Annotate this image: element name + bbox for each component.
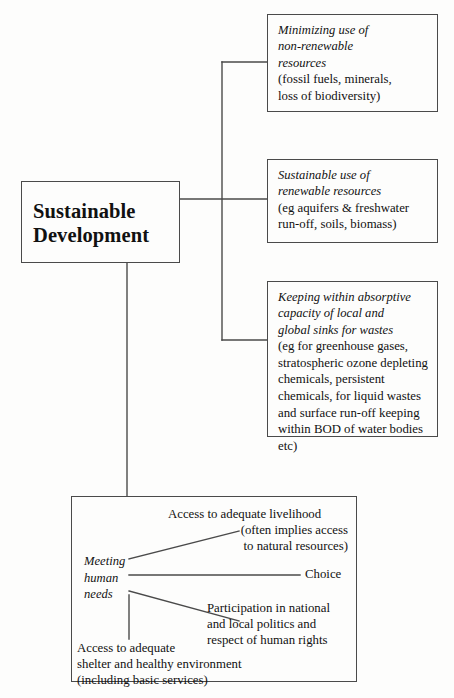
branch-3-body-line-1: (eg for greenhouse gases, [278,338,428,355]
branch-2-heading-line-2: renewable resources [278,183,428,199]
root-title-line-1: Sustainable [33,200,136,222]
shelter-line-1: Access to adequate [77,641,242,657]
branch-3-body-line-4: chemicals, for liquid wastes [278,388,428,405]
livelihood-line-2: (often implies access [120,523,348,539]
branch-2-heading-line-1: Sustainable use of [278,167,428,183]
branch-1-body: (fossil fuels, minerals, loss of biodive… [278,71,428,104]
branch-3-body-line-3: chemicals, persistent [278,371,428,388]
branch-3-body-line-2: stratospheric ozone depleting [278,355,428,372]
branch-3-heading: Keeping within absorptive capacity of lo… [278,289,428,338]
branch-1-heading-line-2: non-renewable [278,38,428,54]
branch-3-heading-line-1: Keeping within absorptive [278,289,428,305]
hub-label-line-1: Meeting [84,553,125,570]
root-title-line-2: Development [33,223,179,247]
choice-line-1: Choice [305,567,341,583]
branch-1-heading: Minimizing use of non-renewable resource… [278,22,428,71]
node-minimizing-non-renewable: Minimizing use of non-renewable resource… [267,14,438,112]
root-title: Sustainable Development [22,182,179,247]
branch-2-body: (eg aquifers & freshwater run-off, soils… [278,200,428,233]
node-meeting-human-needs: Meeting human needs Access to adequate l… [71,496,357,682]
branch-3-body: (eg for greenhouse gases, stratospheric … [278,338,428,454]
participation-line-1: Participation in national [207,601,330,617]
label-access-to-adequate-livelihood: Access to adequate livelihood (often imp… [120,507,348,555]
node-sustainable-development: Sustainable Development [21,181,180,263]
livelihood-line-1: Access to adequate livelihood [120,507,348,523]
livelihood-line-3: to natural resources) [120,539,348,555]
branch-3-heading-line-2: capacity of local and [278,305,428,321]
branch-1-body-line-1: (fossil fuels, minerals, [278,71,428,88]
hub-label-line-2: human [84,570,125,587]
branch-2-heading: Sustainable use of renewable resources [278,167,428,200]
node-sustainable-renewable: Sustainable use of renewable resources (… [267,159,438,243]
shelter-line-2: shelter and healthy environment [77,657,242,673]
branch-2-body-line-1: (eg aquifers & freshwater [278,200,428,217]
branch-3-body-line-5: and surface run-off keeping [278,405,428,422]
label-choice: Choice [305,567,341,583]
branch-3-heading-line-3: global sinks for wastes [278,322,428,338]
hub-label-line-3: needs [84,586,125,603]
branch-1-heading-line-1: Minimizing use of [278,22,428,38]
branch-3-body-line-7: etc) [278,438,428,455]
node-absorptive-capacity: Keeping within absorptive capacity of lo… [267,281,438,437]
branch-2-body-line-2: run-off, soils, biomass) [278,216,428,233]
hub-label-meeting-human-needs: Meeting human needs [84,553,125,603]
label-access-to-adequate-shelter: Access to adequate shelter and healthy e… [77,641,242,689]
sustainable-development-diagram: Sustainable Development Minimizing use o… [0,0,454,698]
shelter-line-3: (including basic services) [77,673,242,689]
branch-1-heading-line-3: resources [278,55,428,71]
branch-1-body-line-2: loss of biodiversity) [278,88,428,105]
participation-line-2: and local politics and [207,617,330,633]
branch-3-body-line-6: within BOD of water bodies [278,421,428,438]
